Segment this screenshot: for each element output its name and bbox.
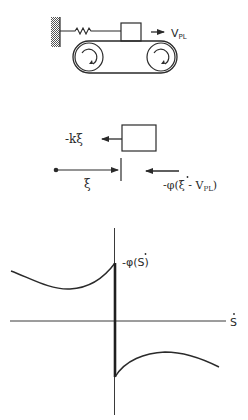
positive-slip-curve <box>115 352 219 377</box>
right-wheel <box>147 43 175 71</box>
wall-icon <box>51 17 60 47</box>
spring-force-label: -kξ <box>65 132 83 146</box>
conveyor-belt <box>73 41 177 73</box>
x-axis-label-dot <box>233 313 235 315</box>
spring-block-model: VPL <box>51 17 187 73</box>
left-wheel <box>75 43 103 71</box>
left-wheel-rotation-icon <box>82 49 97 64</box>
spring-icon <box>60 28 121 34</box>
fbd-block <box>122 125 156 151</box>
curve-label: -φ(S) <box>122 256 149 269</box>
right-wheel-rotation-icon <box>154 49 169 64</box>
block <box>121 23 141 41</box>
negative-slip-curve <box>11 263 115 289</box>
friction-law-chart: S -φ(S) <box>10 228 237 415</box>
x-axis-label: S <box>230 316 237 329</box>
velocity-label: VPL <box>171 27 187 41</box>
curve-label-dot <box>145 253 147 255</box>
free-body-diagram: -kξ ξ -φ(ξ - VPL) <box>54 125 217 193</box>
friction-label-dot <box>187 176 189 178</box>
friction-force-label: -φ(ξ - VPL) <box>163 179 217 193</box>
diagram-canvas: VPL -kξ ξ -φ(ξ - VPL) S -φ(S) <box>0 0 248 420</box>
displacement-label: ξ <box>84 177 91 191</box>
